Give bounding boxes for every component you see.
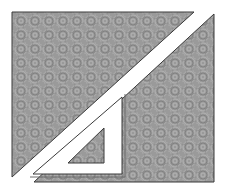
geometric-illustration xyxy=(0,0,227,193)
